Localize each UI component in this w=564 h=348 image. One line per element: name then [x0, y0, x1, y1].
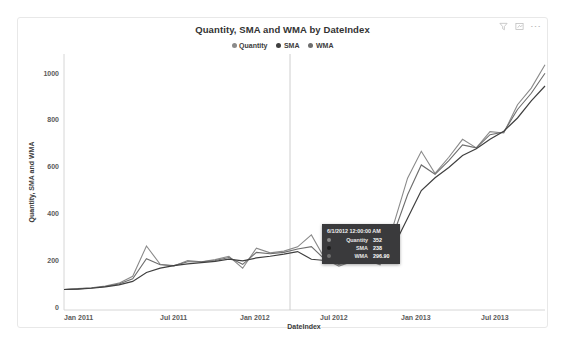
series-line-sma [64, 86, 545, 290]
tooltip-name-sma: SMA [334, 245, 373, 251]
chart-visual-frame: Quantity, SMA and WMA by DateIndex Quant… [17, 17, 548, 328]
y-axis-title: Quantity, SMA and WMA [28, 142, 36, 223]
y-tick-label-400: 400 [47, 210, 59, 217]
x-tick-label-jul-2013: Jul 2013 [481, 314, 509, 321]
x-axis-title: DateIndex [287, 323, 321, 329]
tooltip-row-sma: SMA 238 [327, 245, 395, 251]
y-tick-label-200: 200 [47, 257, 59, 264]
tooltip-marker-quantity [327, 238, 331, 242]
tooltip-header: 6/1/2012 12:00:00 AM [327, 228, 395, 234]
chart-plot-area[interactable]: 1000 800 600 400 200 0 Quantity, SMA and… [18, 18, 549, 329]
tooltip-value-sma: 238 [373, 245, 395, 251]
x-tick-label-jul-2011: Jul 2011 [160, 314, 187, 321]
tooltip-row-wma: WMA 296.90 [327, 253, 395, 259]
y-tick-label-600: 600 [47, 163, 59, 170]
tooltip-name-quantity: Quantity [334, 237, 373, 243]
x-tick-label-jan-2013: Jan 2013 [401, 314, 431, 321]
tooltip-marker-sma [327, 246, 331, 250]
tooltip-name-wma: WMA [334, 253, 373, 259]
chart-tooltip: 6/1/2012 12:00:00 AM Quantity 352 SMA 23… [322, 224, 400, 264]
tooltip-row-quantity: Quantity 352 [327, 237, 395, 243]
y-tick-label-800: 800 [47, 116, 59, 123]
tooltip-value-quantity: 352 [373, 237, 395, 243]
series-lines [64, 65, 545, 290]
tooltip-marker-wma [327, 254, 331, 258]
y-tick-label-1000: 1000 [43, 70, 59, 77]
y-tick-label-0: 0 [55, 304, 59, 311]
x-tick-label-jul-2012: Jul 2012 [320, 314, 348, 321]
tooltip-value-wma: 296.90 [373, 253, 395, 259]
x-tick-label-jan-2012: Jan 2012 [240, 314, 270, 321]
series-line-wma [64, 73, 545, 289]
x-tick-label-jan-2011: Jan 2011 [64, 314, 93, 321]
chart-visual-container: Quantity, SMA and WMA by DateIndex Quant… [0, 0, 564, 348]
